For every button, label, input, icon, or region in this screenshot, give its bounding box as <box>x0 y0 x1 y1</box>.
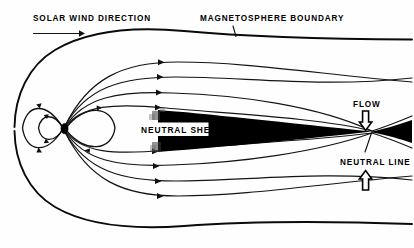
field-arrowhead-south-2 <box>153 163 159 169</box>
tail-line-north-1 <box>65 62 412 126</box>
dayside-arrowhead-outer-top <box>36 103 41 108</box>
magnetosphere-boundary-label: MAGNETOSPHERE BOUNDARY <box>200 14 344 23</box>
neutral-line-label: NEUTRAL LINE <box>340 158 411 167</box>
magnetosphere-figure: NEUTRAL SHEET SOLAR WIND DIRECTION MAGNE… <box>0 0 414 248</box>
flow-arrow-down-icon <box>359 111 371 131</box>
dayside-closed-loop-inner <box>39 117 64 140</box>
field-arrowhead-north-1 <box>158 59 164 65</box>
earth-dipole-icon <box>61 123 68 133</box>
field-arrowhead-south-3 <box>155 178 161 184</box>
flow-label: FLOW <box>353 100 381 109</box>
solar-wind-arrow-icon <box>33 30 85 37</box>
neutral-line-leader <box>365 133 372 152</box>
neutral-sheet-label: NEUTRAL SHEET <box>141 125 223 135</box>
neutral-sheet-label-group: NEUTRAL SHEET <box>139 123 223 137</box>
magnetosphere-diagram: NEUTRAL SHEET SOLAR WIND DIRECTION MAGNE… <box>0 0 414 248</box>
field-arrowhead-north-2 <box>157 74 163 80</box>
field-arrowhead-south-4 <box>157 193 163 199</box>
field-arrowhead-north-3 <box>156 90 162 96</box>
dayside-closed-loop-outer <box>23 108 64 147</box>
solar-wind-label: SOLAR WIND DIRECTION <box>33 14 151 23</box>
